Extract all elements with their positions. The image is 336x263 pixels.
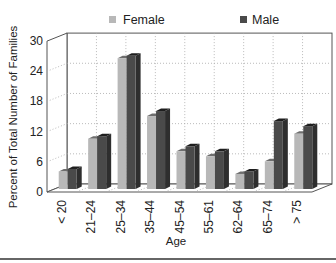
x-tick-label: < 20 <box>55 200 69 224</box>
y-tick-label: 18 <box>30 94 44 108</box>
x-tick-label: 55–61 <box>202 200 216 234</box>
bar-male <box>97 134 111 189</box>
bar-male <box>68 166 82 189</box>
bar-male <box>156 109 170 189</box>
bar-male <box>215 149 229 189</box>
legend-swatch-male <box>240 16 247 23</box>
y-axis-label: Percent of Total Number of Families <box>7 25 19 208</box>
x-tick-label: 25–34 <box>114 200 128 234</box>
bar-male <box>274 119 288 189</box>
bar-male <box>186 144 200 189</box>
x-tick-label: 35–44 <box>143 200 157 234</box>
legend-label-female: Female <box>123 13 165 27</box>
x-axis-ticks: < 2021–2425–3435–4445–5455–6162–6465–74>… <box>55 200 305 234</box>
x-tick-label: 62–64 <box>231 200 245 234</box>
legend-swatch-female <box>109 16 116 23</box>
y-tick-label: 24 <box>30 64 44 78</box>
separator-line <box>0 258 336 260</box>
bar-male <box>127 53 141 189</box>
x-tick-label: 21–24 <box>84 200 98 234</box>
y-tick-label: 30 <box>30 34 44 48</box>
legend: Female Male <box>109 13 279 27</box>
y-tick-label: 6 <box>36 155 43 169</box>
bar-male <box>244 169 258 189</box>
legend-label-male: Male <box>252 13 279 27</box>
x-axis-label: Age <box>166 235 186 247</box>
y-axis-ticks: 0612182430 <box>30 34 44 199</box>
x-tick-label: > 75 <box>290 200 304 224</box>
x-tick-label: 65–74 <box>261 200 275 234</box>
bar-chart: Female Male 0612182430 < 2021–2425–3435–… <box>0 0 336 263</box>
y-tick-label: 0 <box>36 185 43 199</box>
x-tick-label: 45–54 <box>173 200 187 234</box>
y-tick-label: 12 <box>30 125 44 139</box>
bar-male <box>303 124 317 189</box>
